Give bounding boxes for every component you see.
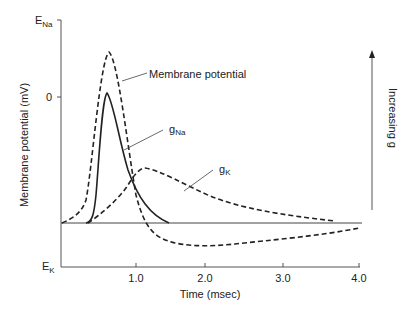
- g-na-curve: [86, 93, 169, 223]
- zero-label: 0: [46, 91, 52, 103]
- e-na-label: ENa: [35, 14, 53, 29]
- arrow-up-icon: [369, 50, 375, 58]
- y-axis-title: Membrane potential (mV): [18, 83, 30, 207]
- x-tick-label-4: 4.0: [351, 272, 366, 284]
- x-axis-title: Time (msec): [180, 288, 241, 300]
- g-na-leader: [124, 130, 163, 150]
- g-k-curve: [88, 168, 335, 223]
- x-tick-label-1: 1.0: [128, 272, 143, 284]
- g-k-leader: [184, 170, 213, 191]
- action-potential-diagram: ENa 0 EK Membrane potential (mV) Time (m…: [0, 0, 399, 310]
- membrane-potential-label: Membrane potential: [149, 68, 246, 80]
- membrane-potential-curve: [62, 52, 359, 246]
- g-na-label: gNa: [169, 123, 186, 137]
- e-k-label: EK: [42, 260, 55, 275]
- x-tick-label-3: 3.0: [275, 272, 290, 284]
- x-tick-label-2: 2.0: [197, 272, 212, 284]
- membrane-potential-leader: [122, 73, 147, 81]
- g-k-label: gK: [219, 163, 231, 177]
- increasing-g-label: Increasing g: [387, 88, 399, 148]
